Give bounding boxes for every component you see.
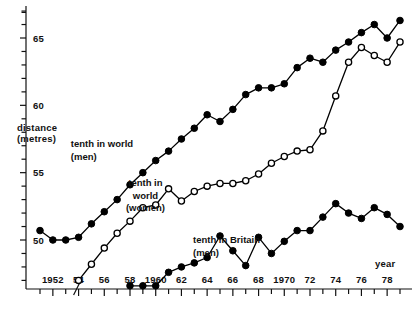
data-point bbox=[114, 230, 120, 236]
data-point bbox=[178, 198, 184, 204]
data-point bbox=[358, 215, 365, 222]
x-axis-tick-label: 72 bbox=[305, 274, 316, 285]
data-point bbox=[345, 210, 352, 217]
data-point bbox=[371, 204, 378, 211]
data-point bbox=[384, 59, 390, 65]
x-axis-tick-label: 68 bbox=[253, 274, 264, 285]
data-point bbox=[268, 85, 275, 92]
data-point bbox=[332, 200, 339, 207]
data-point bbox=[384, 35, 391, 42]
data-point bbox=[242, 262, 249, 269]
x-axis-tick-label: 78 bbox=[382, 274, 393, 285]
y-axis-tick-label: 50 bbox=[33, 235, 44, 246]
data-point bbox=[101, 208, 108, 215]
data-point bbox=[371, 21, 378, 28]
data-point bbox=[384, 211, 391, 218]
annotation-line: tenth in world bbox=[71, 138, 133, 151]
data-point bbox=[191, 125, 198, 132]
x-axis-tick-label: 66 bbox=[227, 274, 238, 285]
data-point bbox=[333, 93, 339, 99]
data-point bbox=[140, 282, 147, 289]
series-annotation-britain-men: tenth in Britain(men) bbox=[193, 234, 260, 259]
data-point bbox=[268, 250, 275, 257]
data-point bbox=[230, 180, 236, 186]
data-point bbox=[127, 218, 133, 224]
y-axis-tick-label: 60 bbox=[33, 100, 44, 111]
x-axis-title: year bbox=[375, 258, 395, 269]
data-point bbox=[281, 238, 288, 245]
data-point bbox=[204, 183, 210, 189]
x-axis-tick-label: 74 bbox=[330, 274, 341, 285]
data-point bbox=[397, 39, 403, 45]
series-annotation-world-women: tenth inworld(women) bbox=[126, 177, 165, 215]
data-point bbox=[255, 171, 261, 177]
data-point bbox=[255, 85, 262, 92]
data-point bbox=[114, 196, 121, 203]
data-point bbox=[101, 245, 107, 251]
chart-container: 5055606519525456581960626466681970727476… bbox=[0, 0, 419, 311]
data-point bbox=[165, 148, 172, 155]
x-axis-tick-label: 1952 bbox=[42, 274, 64, 285]
data-point bbox=[140, 169, 147, 176]
annotation-line: (men) bbox=[193, 247, 260, 260]
data-point bbox=[217, 180, 223, 186]
data-point bbox=[242, 91, 249, 98]
data-point bbox=[371, 52, 377, 58]
data-point bbox=[50, 237, 57, 244]
annotation-line: (women) bbox=[126, 202, 165, 215]
y-axis-tick-label: 65 bbox=[33, 33, 44, 44]
data-point bbox=[152, 157, 159, 164]
data-point bbox=[62, 237, 69, 244]
x-axis-tick-label: 76 bbox=[356, 274, 367, 285]
data-point bbox=[230, 106, 237, 113]
annotation-line: (men) bbox=[71, 151, 133, 164]
data-point bbox=[191, 260, 198, 267]
data-point bbox=[320, 214, 327, 221]
data-point bbox=[294, 227, 301, 234]
data-point bbox=[307, 227, 314, 234]
x-axis-tick-label: 64 bbox=[202, 274, 213, 285]
data-point bbox=[165, 186, 171, 192]
data-point bbox=[178, 136, 185, 143]
x-axis-tick-label: 1970 bbox=[273, 274, 295, 285]
data-point bbox=[332, 47, 339, 54]
data-point bbox=[88, 221, 95, 228]
data-point bbox=[345, 59, 351, 65]
data-point bbox=[204, 111, 211, 118]
data-point bbox=[294, 148, 300, 154]
data-point bbox=[397, 17, 404, 24]
data-point bbox=[307, 147, 313, 153]
data-point bbox=[191, 188, 197, 194]
data-point bbox=[75, 234, 82, 241]
data-point bbox=[320, 59, 327, 66]
annotation-line: tenth in Britain bbox=[193, 234, 260, 247]
data-point bbox=[152, 282, 159, 289]
annotation-line: tenth in bbox=[126, 177, 165, 190]
y-axis-title: distance (metres) bbox=[17, 122, 57, 144]
data-point bbox=[37, 227, 44, 234]
data-point bbox=[243, 178, 249, 184]
data-point bbox=[345, 39, 352, 46]
data-point bbox=[281, 80, 288, 87]
annotation-line: world bbox=[126, 190, 165, 203]
series-line bbox=[40, 20, 400, 240]
y-axis-tick-label: 55 bbox=[33, 167, 44, 178]
y-axis-title-line1: distance bbox=[17, 122, 57, 133]
data-point bbox=[88, 261, 94, 267]
data-point bbox=[165, 269, 172, 276]
data-point bbox=[178, 264, 185, 271]
data-point bbox=[281, 153, 287, 159]
y-axis-title-line2: (metres) bbox=[17, 133, 57, 144]
data-point bbox=[127, 282, 134, 289]
x-axis-tick-label: 62 bbox=[176, 274, 187, 285]
data-point bbox=[307, 55, 314, 62]
data-point bbox=[358, 29, 365, 36]
x-axis-tick-label: 56 bbox=[99, 274, 110, 285]
data-point bbox=[397, 223, 404, 230]
chart-plot-area: 5055606519525456581960626466681970727476… bbox=[0, 0, 419, 311]
data-point bbox=[320, 128, 326, 134]
series-annotation-world-men: tenth in world(men) bbox=[71, 138, 133, 163]
data-point bbox=[75, 277, 81, 283]
data-point bbox=[268, 160, 274, 166]
data-point bbox=[358, 44, 364, 50]
